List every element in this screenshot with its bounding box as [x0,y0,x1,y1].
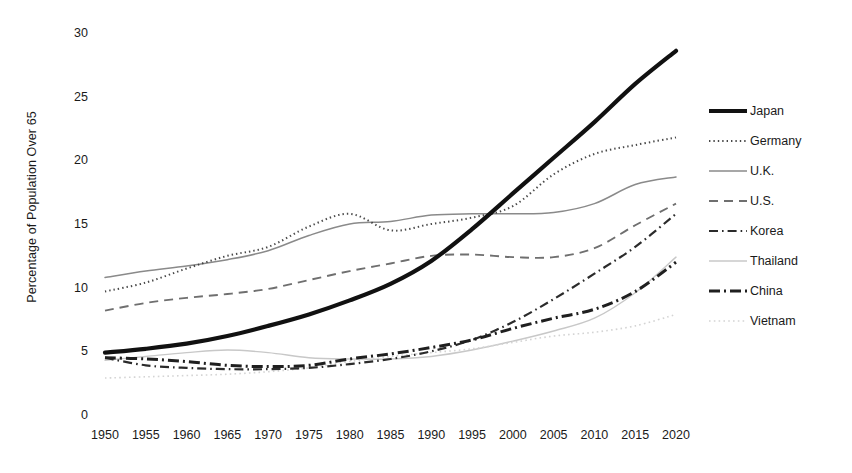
legend-item-vietnam[interactable]: Vietnam [707,306,852,336]
series-line-uk [105,177,676,278]
legend-item-label: Thailand [749,254,798,268]
chart-legend: JapanGermanyU.K.U.S.KoreaThailandChinaVi… [707,96,852,336]
legend-line-swatch-icon [707,254,749,268]
legend-line-swatch-icon [707,224,749,238]
legend-item-us[interactable]: U.S. [707,186,852,216]
legend-line-swatch-icon [707,314,749,328]
legend-item-label: China [749,284,783,298]
legend-item-uk[interactable]: U.K. [707,156,852,186]
legend-item-korea[interactable]: Korea [707,216,852,246]
series-line-japan [105,51,676,353]
legend-item-germany[interactable]: Germany [707,126,852,156]
legend-item-label: Japan [749,104,784,118]
legend-line-swatch-icon [707,284,749,298]
legend-line-swatch-icon [707,194,749,208]
legend-item-label: Korea [749,224,783,238]
legend-item-china[interactable]: China [707,276,852,306]
legend-item-label: Germany [749,134,801,148]
legend-line-swatch-icon [707,164,749,178]
legend-line-swatch-icon [707,104,749,118]
series-line-china [105,262,676,366]
series-line-vietnam [105,314,676,378]
legend-item-label: U.S. [749,194,774,208]
series-line-korea [105,214,676,370]
line-chart: Percentage of Population Over 65 0510152… [0,0,852,473]
legend-item-thailand[interactable]: Thailand [707,246,852,276]
legend-item-label: U.K. [749,164,774,178]
series-line-germany [105,137,676,291]
legend-item-label: Vietnam [749,314,796,328]
series-line-us [105,204,676,311]
legend-line-swatch-icon [707,134,749,148]
legend-item-japan[interactable]: Japan [707,96,852,126]
